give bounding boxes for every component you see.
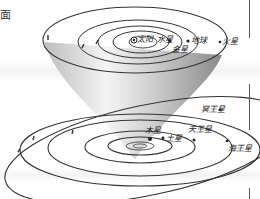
label-jupiter: 木星 xyxy=(145,127,161,135)
mars-dot xyxy=(219,41,222,44)
jupiter-dot xyxy=(148,137,152,141)
label-saturn: 土星 xyxy=(166,135,182,143)
label-venus: 金星 xyxy=(172,46,188,54)
label-mars: 火星 xyxy=(222,38,238,46)
label-mercury: 水星 xyxy=(157,36,173,44)
solar-system-diagram: 面 太阳 水星 金星 地球 火星 木星 土星 天王星 海王星 冥王星 xyxy=(0,0,260,199)
earth-dot xyxy=(186,39,189,42)
label-sun: 太阳 xyxy=(137,36,153,44)
label-neptune: 海王星 xyxy=(228,145,252,153)
label-earth: 地球 xyxy=(191,37,207,45)
saturn-dot xyxy=(162,137,165,140)
margin-line xyxy=(249,84,250,130)
label-pluto: 冥王星 xyxy=(201,106,225,114)
margin-line xyxy=(249,188,250,199)
label-uranus: 天王星 xyxy=(188,126,212,134)
neptune-dot xyxy=(226,140,229,143)
caption-fragment: 面 xyxy=(0,6,11,22)
margin-line xyxy=(249,0,250,38)
uranus-dot xyxy=(193,139,196,142)
diagram-graphics xyxy=(0,0,260,199)
